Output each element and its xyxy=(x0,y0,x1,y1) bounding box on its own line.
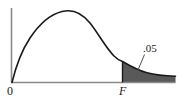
origin-label: 0 xyxy=(7,85,13,97)
tail-area-label: .05 xyxy=(143,43,157,54)
f-distribution-figure: 0 F .05 xyxy=(0,0,180,101)
critical-value-label: F xyxy=(119,85,126,97)
tail-shaded-region xyxy=(123,62,176,83)
